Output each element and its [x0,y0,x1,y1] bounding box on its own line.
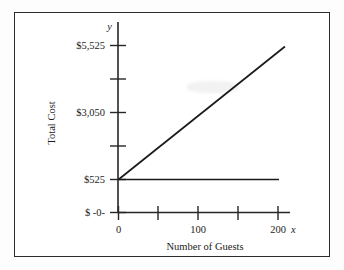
y-tick-label-5525: $5,525 [76,40,105,51]
y-variable-label: y [106,21,112,32]
variable-cost-line [119,47,286,180]
line-chart: $5,525 $3,050 $525 $ -0- 0 100 200 y x T… [0,0,344,270]
chart-page: $5,525 $3,050 $525 $ -0- 0 100 200 y x T… [0,0,344,270]
x-axis-title: Number of Guests [167,241,244,252]
x-tick-label-200: 200 [270,224,286,235]
y-tick-label-0: $ -0- [85,207,106,218]
x-tick-label-100: 100 [190,224,206,235]
y-tick-label-525: $525 [84,174,105,185]
y-tick-label-3050: $3,050 [76,107,105,118]
x-tick-label-0: 0 [116,224,121,235]
y-axis-title: Total Cost [46,101,57,144]
x-variable-label: x [290,224,296,235]
